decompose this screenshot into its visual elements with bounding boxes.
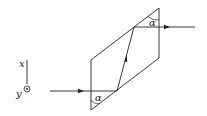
y-axis-dot-icon (26, 88, 28, 90)
exit-arrow-icon (164, 25, 170, 29)
diagram-canvas: α α x y (0, 0, 207, 116)
angle-label-bottom: α (95, 92, 102, 103)
x-axis-label: x (19, 58, 25, 69)
internal-arrow-icon (124, 55, 127, 62)
y-axis-label: y (15, 88, 22, 99)
angle-label-top: α (149, 17, 156, 28)
incident-arrow-icon (78, 89, 84, 93)
